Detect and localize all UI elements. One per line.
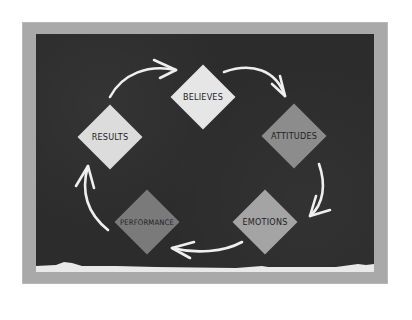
arrow-emotions-to-performance <box>172 242 242 258</box>
arrow-attitudes-to-emotions <box>310 164 330 216</box>
chalkboard-frame: BELIEVES ATTITUDES EMOTIONS PERFORMANCE … <box>22 22 388 284</box>
cycle-diagram: BELIEVES ATTITUDES EMOTIONS PERFORMANCE … <box>36 34 374 272</box>
arrow-believes-to-attitudes <box>224 68 285 96</box>
chalkboard: BELIEVES ATTITUDES EMOTIONS PERFORMANCE … <box>36 34 374 272</box>
node-label: RESULTS <box>92 132 129 142</box>
node-emotions: EMOTIONS <box>232 189 297 254</box>
node-attitudes: ATTITUDES <box>261 103 326 168</box>
node-results: RESULTS <box>77 104 142 169</box>
chalk-tray-dust <box>36 260 374 272</box>
node-label: BELIEVES <box>183 92 223 102</box>
node-label: PERFORMANCE <box>120 218 174 227</box>
node-label: ATTITUDES <box>271 131 317 141</box>
node-believes: BELIEVES <box>170 64 235 129</box>
arrow-performance-to-results <box>76 166 108 230</box>
node-performance: PERFORMANCE <box>114 189 179 254</box>
arrow-results-to-believes <box>110 60 176 97</box>
node-label: EMOTIONS <box>243 217 288 227</box>
